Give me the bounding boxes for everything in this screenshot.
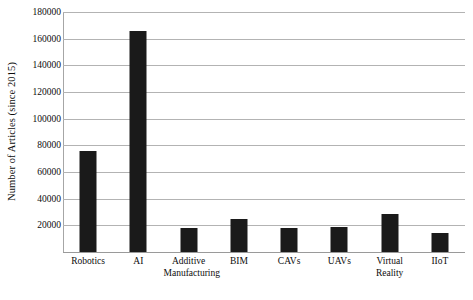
y-axis-tick-label: 180000	[22, 7, 61, 17]
plot-area	[63, 12, 465, 252]
gridline	[63, 252, 465, 253]
x-axis-tick-label: BIM	[214, 256, 264, 268]
x-axis-tick-label: CAVs	[264, 256, 314, 268]
y-axis-tick-label: 140000	[22, 60, 61, 70]
x-axis-tick-label: Robotics	[63, 256, 113, 268]
y-axis-tick-label: 20000	[22, 220, 61, 230]
bar[interactable]	[331, 227, 348, 252]
y-axis-tick-labels: 2000040000600008000010000012000014000016…	[22, 0, 61, 262]
bar[interactable]	[80, 151, 97, 252]
bar-slot	[113, 12, 163, 252]
bar-slot	[365, 12, 415, 252]
x-axis-tick-labels: RoboticsAIAdditive ManufacturingBIMCAVsU…	[63, 256, 465, 296]
x-axis-tick-label: UAVs	[314, 256, 364, 268]
bar-slot	[63, 12, 113, 252]
bar[interactable]	[281, 228, 298, 252]
bar-slot	[415, 12, 465, 252]
bar-chart: Number of Articles (since 2015) 20000400…	[0, 0, 473, 300]
y-axis-tick-label: 100000	[22, 114, 61, 124]
y-axis-title-text: Number of Articles (since 2015)	[6, 62, 17, 201]
bar-slot	[164, 12, 214, 252]
y-axis-tick-label: 80000	[22, 140, 61, 150]
x-axis-tick-label: IIoT	[415, 256, 465, 268]
y-axis-tick-label: 160000	[22, 34, 61, 44]
bars-layer	[63, 12, 465, 252]
y-axis-title: Number of Articles (since 2015)	[0, 0, 22, 262]
y-axis-tick-label: 120000	[22, 87, 61, 97]
x-axis-tick-label: Additive Manufacturing	[164, 256, 214, 279]
bar-slot	[314, 12, 364, 252]
bar-slot	[214, 12, 264, 252]
bar[interactable]	[230, 219, 247, 252]
y-axis-tick-label: 40000	[22, 194, 61, 204]
bar[interactable]	[130, 31, 147, 252]
bar[interactable]	[381, 214, 398, 252]
y-axis-tick-label: 60000	[22, 167, 61, 177]
x-axis-tick-label: AI	[113, 256, 163, 268]
bar[interactable]	[431, 233, 448, 252]
bar-slot	[264, 12, 314, 252]
bar[interactable]	[180, 228, 197, 252]
x-axis-tick-label: Virtual Reality	[365, 256, 415, 279]
